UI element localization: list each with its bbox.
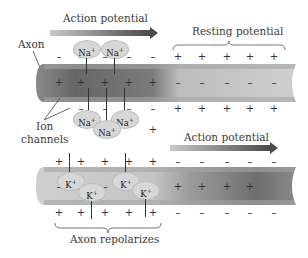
ion-flow-arrow xyxy=(125,153,126,172)
charge-sign: + xyxy=(76,78,86,88)
charge-sign: + xyxy=(245,52,255,62)
charge-sign: – xyxy=(269,208,279,218)
charge-sign: + xyxy=(245,104,255,114)
charge-sign: + xyxy=(197,104,207,114)
charge-sign: + xyxy=(54,208,64,218)
charge-sign: – xyxy=(245,78,255,88)
charge-sign: – xyxy=(245,157,255,167)
charge-sign: + xyxy=(269,104,279,114)
charge-sign: + xyxy=(222,182,232,192)
charge-sign: + xyxy=(245,182,255,192)
charge-sign: + xyxy=(173,182,183,192)
potassium-ion: K+ xyxy=(78,183,106,202)
ion-flow-arrow xyxy=(88,88,89,110)
charge-sign: + xyxy=(222,52,232,62)
ion-channels-pointer-lines xyxy=(42,96,72,122)
charge-sign: + xyxy=(148,157,158,167)
charge-sign: + xyxy=(222,104,232,114)
ion-flow-arrow xyxy=(86,58,87,74)
axon-top xyxy=(36,64,296,102)
axon-label: Axon xyxy=(18,38,45,50)
charge-sign: + xyxy=(269,52,279,62)
ion-channels-label-line2: channels xyxy=(21,133,68,146)
charge-sign: + xyxy=(54,78,64,88)
charge-sign: + xyxy=(197,182,207,192)
charge-sign: + xyxy=(100,208,110,218)
ion-flow-arrow xyxy=(145,199,146,217)
charge-sign: + xyxy=(173,52,183,62)
charge-sign: – xyxy=(197,78,207,88)
charge-sign: – xyxy=(100,104,110,114)
resting-potential-label: Resting potential xyxy=(192,25,283,37)
charge-sign: + xyxy=(54,157,64,167)
ion-channels-label: Ion channels xyxy=(21,120,68,146)
charge-sign: – xyxy=(54,52,64,62)
ion-flow-arrow xyxy=(124,88,125,110)
charge-sign: + xyxy=(124,78,134,88)
charge-sign: – xyxy=(173,78,183,88)
ion-flow-arrow xyxy=(69,153,70,172)
potassium-ion: K+ xyxy=(132,181,160,200)
sodium-ion: Na+ xyxy=(73,40,101,59)
action-potential-label-top: Action potential xyxy=(63,12,148,24)
charge-sign: + xyxy=(148,78,158,88)
charge-sign: + xyxy=(100,157,110,167)
charge-sign: + xyxy=(148,125,158,135)
charge-sign: – xyxy=(222,157,232,167)
charge-sign: + xyxy=(148,208,158,218)
sodium-ion: Na+ xyxy=(93,120,121,139)
charge-sign: – xyxy=(245,208,255,218)
ion-flow-arrow xyxy=(114,58,115,74)
charge-sign: – xyxy=(148,52,158,62)
charge-sign: + xyxy=(76,157,86,167)
sodium-ion: Na+ xyxy=(101,40,129,59)
charge-sign: + xyxy=(197,52,207,62)
charge-sign: – xyxy=(148,104,158,114)
action-potential-arrow-bottom xyxy=(170,142,280,154)
charge-sign: – xyxy=(197,208,207,218)
charge-sign: + xyxy=(124,208,134,218)
charge-sign: – xyxy=(197,157,207,167)
charge-sign: + xyxy=(173,104,183,114)
charge-sign: – xyxy=(269,157,279,167)
charge-sign: – xyxy=(173,157,183,167)
charge-sign: + xyxy=(100,78,110,88)
action-potential-arrow-top xyxy=(50,27,160,39)
axon-repolarizes-label: Axon repolarizes xyxy=(70,233,159,245)
ion-flow-arrow xyxy=(91,201,92,219)
charge-sign: + xyxy=(76,208,86,218)
charge-sign: – xyxy=(173,208,183,218)
charge-sign: – xyxy=(222,78,232,88)
charge-sign: – xyxy=(222,208,232,218)
ion-flow-arrow xyxy=(106,88,107,120)
charge-sign: – xyxy=(269,78,279,88)
